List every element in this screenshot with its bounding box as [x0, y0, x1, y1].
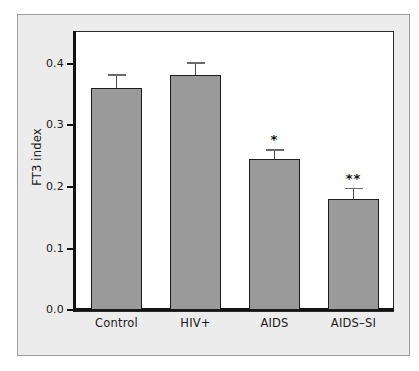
x-tick-label-control: Control: [77, 316, 157, 330]
error-bar-stem-1: [195, 62, 197, 75]
y-tick-mark-0.4: [67, 63, 74, 65]
x-tick-label-aids-si: AIDS–SI: [314, 316, 394, 330]
y-tick-label-0.0: 0.0: [30, 303, 64, 316]
significance-mark-aids: *: [255, 133, 295, 146]
bar-aids-si: [328, 199, 379, 310]
error-bar-cap-0: [108, 74, 126, 76]
figure-canvas: 0.4 0.3 0.2 0.1 0.0 FT3 index ControlHIV…: [0, 0, 419, 371]
y-tick-mark-0.1: [67, 248, 74, 250]
significance-mark-aids-si: **: [334, 172, 374, 185]
error-bar-stem-3: [353, 188, 355, 199]
y-tick-mark-0.0: [67, 309, 74, 311]
y-axis-title: FT3 index: [30, 117, 44, 197]
x-tick-label-hiv-: HIV+: [156, 316, 236, 330]
bar-aids: [249, 159, 300, 310]
y-tick-label-0.4: 0.4: [30, 57, 64, 70]
error-bar-cap-3: [345, 188, 363, 190]
error-bar-stem-0: [116, 74, 118, 88]
y-tick-mark-0.2: [67, 186, 74, 188]
bar-hiv-: [170, 75, 221, 310]
error-bar-cap-2: [266, 149, 284, 151]
y-tick-label-0.1: 0.1: [30, 242, 64, 255]
y-tick-mark-0.3: [67, 124, 74, 126]
y-axis-line: [73, 31, 76, 312]
error-bar-cap-1: [187, 62, 205, 64]
bar-control: [91, 88, 142, 310]
x-tick-label-aids: AIDS: [235, 316, 315, 330]
